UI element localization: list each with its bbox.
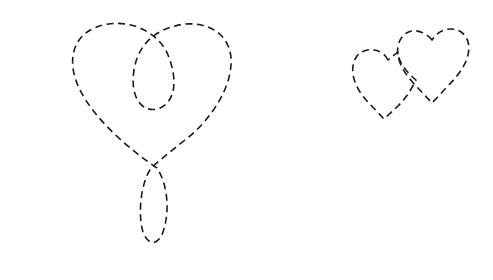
small-heart-left-outline (353, 50, 416, 119)
small-heart-left (353, 50, 416, 119)
small-heart-right (398, 29, 469, 103)
dashed-hearts-figure (0, 0, 493, 280)
small-heart-right-outline (398, 29, 469, 103)
looped-heart (73, 23, 232, 242)
looped-heart-outline (73, 23, 232, 242)
